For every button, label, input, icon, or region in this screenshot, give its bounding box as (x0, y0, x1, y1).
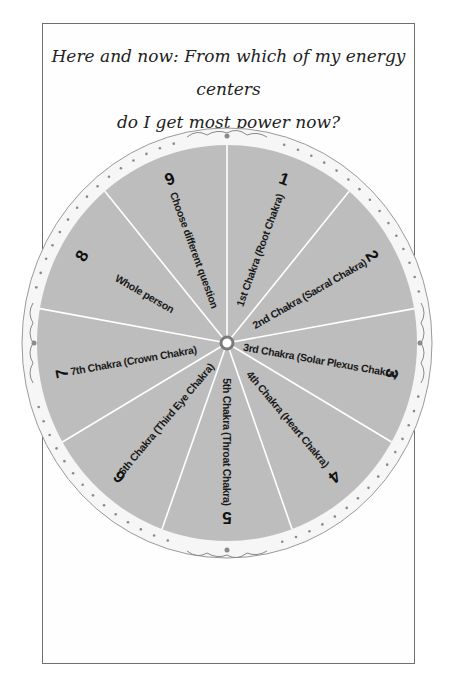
chakra-wheel: 11st Chakra (Root Chakra)22nd Chakra (Sa… (0, 0, 452, 692)
segment-number: 5 (222, 508, 231, 527)
segment-5[interactable]: 55th Chakra (Throat Chakra) (221, 378, 233, 527)
hub-icon (221, 337, 233, 349)
segment-label: 5th Chakra (Throat Chakra) (221, 378, 233, 506)
